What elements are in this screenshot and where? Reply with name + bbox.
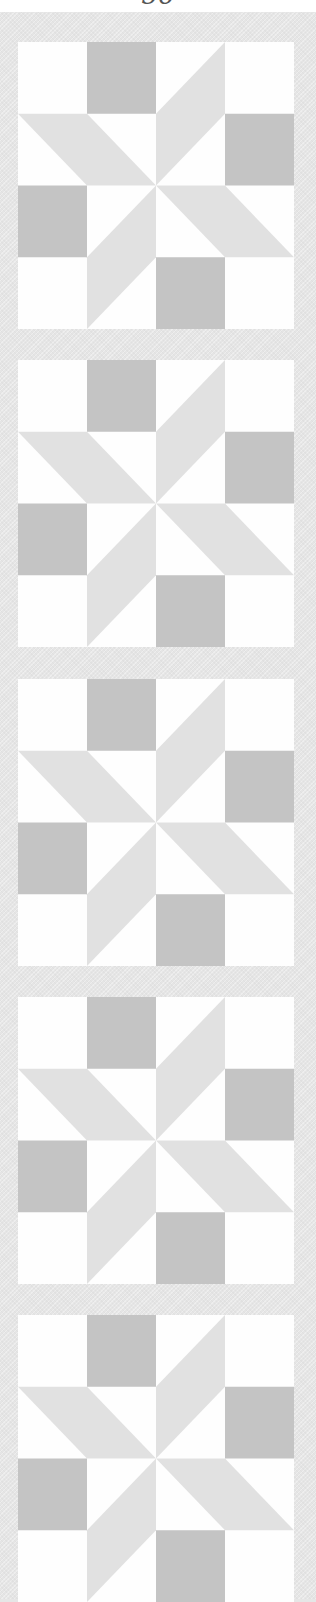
- dark-square-3: [18, 1459, 87, 1531]
- dark-square-4: [156, 1530, 225, 1602]
- dark-square-4: [156, 257, 225, 329]
- dark-square-2: [225, 114, 294, 186]
- dark-square-3: [18, 823, 87, 895]
- dark-square-4: [156, 1212, 225, 1284]
- star-block-icon: [18, 679, 294, 966]
- dark-square-3: [18, 1141, 87, 1213]
- dark-square-2: [225, 432, 294, 504]
- dark-square-3: [18, 186, 87, 258]
- dark-square-1: [87, 360, 156, 432]
- dark-square-2: [225, 751, 294, 823]
- dark-square-3: [18, 504, 87, 576]
- quilt-block-1: [18, 42, 294, 329]
- quilt-block-2: [18, 360, 294, 647]
- dark-square-4: [156, 575, 225, 647]
- star-block-icon: [18, 360, 294, 647]
- dark-square-1: [87, 679, 156, 751]
- quilt-block-3: [18, 679, 294, 966]
- dark-square-1: [87, 42, 156, 114]
- dark-square-1: [87, 997, 156, 1069]
- quilt-block-4: [18, 997, 294, 1284]
- page-number: 56: [0, 0, 316, 7]
- dark-square-2: [225, 1069, 294, 1141]
- dark-square-2: [225, 1387, 294, 1459]
- dark-square-1: [87, 1315, 156, 1387]
- quilt-block-5: [18, 1315, 294, 1602]
- star-block-icon: [18, 42, 294, 329]
- star-block-icon: [18, 997, 294, 1284]
- star-block-icon: [18, 1315, 294, 1602]
- dark-square-4: [156, 894, 225, 966]
